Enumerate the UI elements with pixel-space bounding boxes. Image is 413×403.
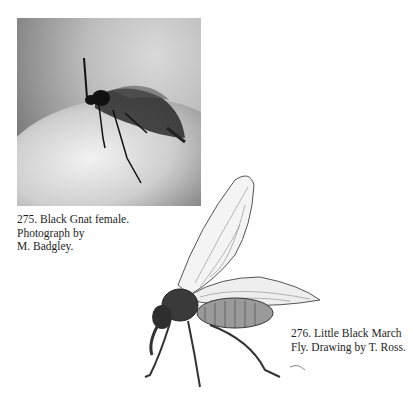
caption-line: Fly. Drawing by T. Ross. <box>291 341 413 355</box>
figure-276-caption: 276. Little Black March Fly. Drawing by … <box>291 327 413 354</box>
march-fly-insect-icon <box>140 165 330 390</box>
caption-line: 276. Little Black March <box>291 327 413 341</box>
march-fly-drawing <box>140 165 330 390</box>
